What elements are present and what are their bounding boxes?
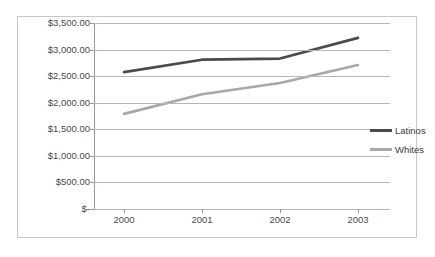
x-axis-tick-mark bbox=[124, 209, 125, 213]
legend-label: Latinos bbox=[395, 126, 426, 136]
x-axis-tick-mark bbox=[358, 209, 359, 213]
y-axis-tick-mark bbox=[90, 50, 94, 51]
y-axis-tick-label: $- bbox=[22, 204, 90, 214]
chart-legend: LatinosWhites bbox=[370, 121, 435, 159]
x-axis-tick-label: 2000 bbox=[113, 215, 134, 225]
y-axis-tick-label: $3,000.00 bbox=[22, 45, 90, 55]
y-axis-tick-label: $1,500.00 bbox=[22, 125, 90, 135]
x-axis-tick-mark bbox=[280, 209, 281, 213]
y-axis-tick-mark bbox=[90, 103, 94, 104]
y-axis-tick-label: $3,500.00 bbox=[22, 18, 90, 28]
series-lines bbox=[94, 23, 390, 209]
legend-item-latinos[interactable]: Latinos bbox=[370, 121, 435, 140]
y-axis-tick-mark bbox=[90, 76, 94, 77]
y-axis-tick-label: $500.00 bbox=[22, 178, 90, 188]
gridline bbox=[94, 156, 390, 157]
x-axis-tick-label: 2003 bbox=[347, 215, 368, 225]
x-axis-tick-label: 2002 bbox=[269, 215, 290, 225]
gridline bbox=[94, 23, 390, 24]
y-axis-tick-mark bbox=[90, 209, 94, 210]
y-axis-tick-label: $2,500.00 bbox=[22, 71, 90, 81]
legend-item-whites[interactable]: Whites bbox=[370, 140, 435, 159]
y-axis-tick-labels: $-$500.00$1,000.00$1,500.00$2,000.00$2,5… bbox=[22, 23, 90, 209]
chart-plot-wrapper: $-$500.00$1,000.00$1,500.00$2,000.00$2,5… bbox=[18, 17, 416, 237]
y-axis-tick-mark bbox=[90, 23, 94, 24]
x-axis-tick-labels: 2000200120022003 bbox=[94, 215, 390, 231]
series-line-whites bbox=[124, 65, 358, 114]
gridline bbox=[94, 76, 390, 77]
plot-area bbox=[94, 23, 390, 209]
legend-swatch-icon bbox=[370, 129, 392, 132]
y-axis-tick-mark bbox=[90, 182, 94, 183]
x-axis-tick-mark bbox=[202, 209, 203, 213]
gridline bbox=[94, 103, 390, 104]
y-axis-tick-label: $2,000.00 bbox=[22, 98, 90, 108]
y-axis-tick-mark bbox=[90, 156, 94, 157]
chart-container: $-$500.00$1,000.00$1,500.00$2,000.00$2,5… bbox=[17, 16, 417, 238]
series-line-latinos bbox=[124, 38, 358, 72]
x-axis-tick-label: 2001 bbox=[191, 215, 212, 225]
gridline bbox=[94, 50, 390, 51]
gridline bbox=[94, 129, 390, 130]
y-axis-tick-mark bbox=[90, 129, 94, 130]
gridline bbox=[94, 182, 390, 183]
y-axis-tick-label: $1,000.00 bbox=[22, 151, 90, 161]
legend-label: Whites bbox=[395, 145, 424, 155]
legend-swatch-icon bbox=[370, 148, 392, 151]
gridline bbox=[94, 209, 390, 210]
